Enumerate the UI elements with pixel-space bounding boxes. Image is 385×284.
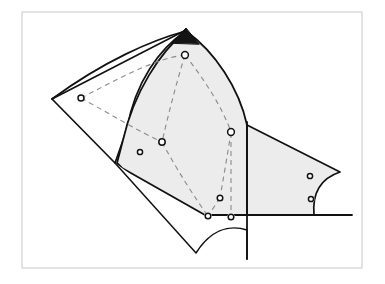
node-right-upper (307, 173, 314, 180)
node-left (77, 94, 85, 102)
node-bottom-left (204, 212, 211, 219)
node-lower-mid-ring (217, 195, 223, 201)
node-apex (181, 51, 190, 60)
node-edge-left (137, 149, 144, 156)
figure-container (0, 0, 385, 284)
node-center (158, 138, 166, 146)
node-apex-ring (182, 52, 189, 59)
diagram-canvas (0, 0, 385, 284)
node-bottom-left-ring (205, 213, 211, 219)
node-left-ring (78, 95, 84, 101)
node-right-upper-ring (307, 173, 312, 178)
node-center-ring (159, 139, 165, 145)
node-bottom-right (227, 213, 234, 220)
node-right-mid-ring (228, 129, 235, 136)
node-right-lower (308, 196, 315, 203)
node-bottom-right-ring (228, 214, 234, 220)
node-lower-mid (216, 194, 223, 201)
node-edge-left-ring (137, 149, 142, 154)
node-right-mid (227, 128, 236, 137)
node-right-lower-ring (308, 196, 313, 201)
